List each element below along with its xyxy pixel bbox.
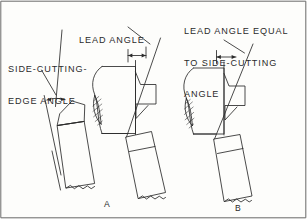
lead-angle-line1: LEAD ANGLE <box>79 35 145 46</box>
left-angle-leg-lower <box>52 151 61 190</box>
side-cutting-edge-angle-line2: EDGE ANGLE <box>8 96 87 107</box>
side-cutting-edge-angle-label: SIDE-CUTTING- EDGE ANGLE <box>8 43 87 127</box>
figure-letter-a: A <box>104 199 110 209</box>
lead-angle-equal-line2: TO SIDE-CUTTING <box>184 58 288 69</box>
center-shank-divider <box>130 147 156 152</box>
lead-angle-equal-line3: ANGLE <box>184 89 288 100</box>
right-tool-shank <box>214 135 252 202</box>
left-tool-shank <box>58 121 95 188</box>
side-cutting-edge-angle-line1: SIDE-CUTTING- <box>8 64 87 75</box>
center-tool-head <box>136 72 157 119</box>
lead-angle-equal-label: LEAD ANGLE EQUAL TO SIDE-CUTTING ANGLE <box>184 5 288 121</box>
center-tool-shank <box>126 132 166 199</box>
center-workpiece-outline <box>102 67 136 134</box>
technical-diagram: SIDE-CUTTING- EDGE ANGLE LEAD ANGLE LEAD… <box>0 0 307 219</box>
lead-angle-equal-line1: LEAD ANGLE EQUAL <box>184 26 288 37</box>
lead-angle-label: LEAD ANGLE <box>79 14 145 67</box>
right-shank-divider <box>218 149 244 154</box>
figure-letter-b: B <box>235 203 241 213</box>
